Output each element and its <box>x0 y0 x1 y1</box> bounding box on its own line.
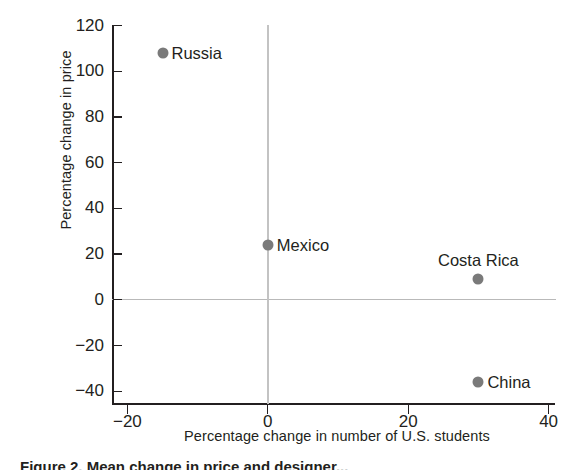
y-axis-tick <box>113 208 122 209</box>
figure-caption: Figure 2. Mean change in price and desig… <box>20 458 348 470</box>
x-axis-line <box>112 403 555 405</box>
x-axis-tick-label: 20 <box>373 412 443 432</box>
data-point-label-russia: Russia <box>172 45 222 62</box>
y-axis-tick <box>113 391 122 392</box>
data-point-label-mexico: Mexico <box>277 237 329 254</box>
y-axis-tick-label: −40 <box>44 382 104 399</box>
y-axis-tick <box>113 253 122 254</box>
y-axis-tick <box>113 25 122 26</box>
x-axis-tick-label: −20 <box>92 412 162 432</box>
y-axis-tick <box>113 116 122 117</box>
y-axis-tick-label: 100 <box>44 62 104 79</box>
data-point-label-costa-rica: Costa Rica <box>423 252 533 269</box>
y-axis-tick <box>113 299 122 300</box>
x-axis-tick-label: 0 <box>233 412 303 432</box>
y-axis-tick <box>113 71 122 72</box>
y-axis-tick-label: 60 <box>44 154 104 171</box>
zero-reference-line-vertical <box>267 25 269 404</box>
data-point-china[interactable] <box>473 377 484 388</box>
x-axis-label: Percentage change in number of U.S. stud… <box>112 428 562 444</box>
data-point-costa-rica[interactable] <box>473 274 484 285</box>
y-axis-tick-label: 40 <box>44 199 104 216</box>
y-axis-tick <box>113 162 122 163</box>
data-point-label-china: China <box>487 374 530 391</box>
zero-reference-line-horizontal <box>112 299 556 300</box>
x-axis-tick-label: 40 <box>514 412 580 432</box>
y-axis-tick-label: 80 <box>44 108 104 125</box>
y-axis-line <box>112 25 114 405</box>
y-axis-tick <box>113 345 122 346</box>
scatter-plot-figure: Percentage change in price Percentage ch… <box>0 0 580 470</box>
y-axis-tick-label: 120 <box>44 17 104 34</box>
y-axis-tick-label: −20 <box>44 337 104 354</box>
data-point-russia[interactable] <box>157 48 168 59</box>
y-axis-tick-label: 0 <box>44 291 104 308</box>
y-axis-tick-label: 20 <box>44 245 104 262</box>
data-point-mexico[interactable] <box>262 239 273 250</box>
